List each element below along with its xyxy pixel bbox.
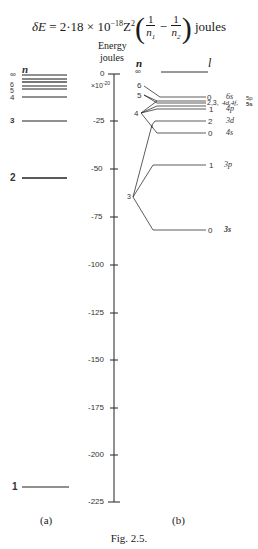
level-name-5s: 5s xyxy=(246,101,253,107)
panel-b-levels xyxy=(133,72,208,230)
level-l-3p: 1 xyxy=(209,161,213,170)
panel-b-caption: (b) xyxy=(172,514,185,526)
level-l-4s: 0 xyxy=(208,129,212,138)
panel-a-label-4: 4 xyxy=(10,93,14,102)
axis-tick-200: -200 xyxy=(88,450,104,459)
axis-scale: ×10-20 xyxy=(91,80,110,89)
axis-tick-50: -50 xyxy=(91,164,103,173)
diagram-lines xyxy=(0,0,258,549)
panel-a-label-2: 2 xyxy=(10,172,16,183)
axis-tick-0: 0 xyxy=(100,69,104,78)
level-name-4s: 4s xyxy=(226,128,233,137)
panel-a-levels xyxy=(22,75,69,487)
panel-b-n-inf: ∞ xyxy=(135,67,141,76)
level-name-3p: 3p xyxy=(224,160,232,169)
panel-b-header-l: l xyxy=(208,56,211,71)
axis-tick-25: -25 xyxy=(93,116,105,125)
level-l-3d: 2 xyxy=(208,117,212,126)
axis-title-line2: joules xyxy=(100,52,124,63)
energy-axis xyxy=(108,74,120,502)
figure-caption: Fig. 2.5. xyxy=(0,532,258,544)
axis-tick-175: -175 xyxy=(88,403,104,412)
level-name-3d: 3d xyxy=(226,116,234,125)
panel-a-label-1: 1 xyxy=(12,481,18,492)
level-l-4p: 1 xyxy=(209,105,213,114)
panel-a-header: n xyxy=(22,63,28,75)
panel-b-n-4: 4 xyxy=(134,109,138,118)
panel-b-n-5: 5 xyxy=(137,91,141,100)
axis-title-line1: Energy xyxy=(98,40,127,51)
panel-b-n-3: 3 xyxy=(127,193,131,200)
axis-scale-exp: -20 xyxy=(103,80,110,86)
panel-b-n-6: 6 xyxy=(137,81,141,90)
axis-tick-150: -150 xyxy=(88,355,104,364)
axis-scale-base: ×10 xyxy=(91,82,103,89)
level-l-3s: 0 xyxy=(208,226,212,235)
panel-a-label-inf: ∞ xyxy=(10,70,16,79)
panel-a-label-3: 3 xyxy=(10,116,14,125)
axis-tick-75: -75 xyxy=(91,212,103,221)
level-name-3s: 3s xyxy=(224,225,231,234)
axis-tick-125: -125 xyxy=(88,308,104,317)
level-name-4p: 4p xyxy=(226,104,234,113)
axis-tick-100: -100 xyxy=(88,260,104,269)
axis-tick-225: -225 xyxy=(88,497,104,506)
panel-a-caption: (a) xyxy=(40,514,52,526)
